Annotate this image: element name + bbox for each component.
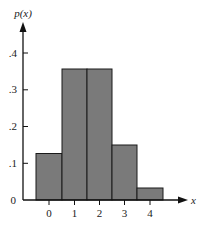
bars [36,69,163,200]
x-tick-label: 3 [122,207,128,219]
x-axis-arrow-icon [178,197,188,204]
y-tick-label: .3 [9,83,18,95]
bar-2 [87,69,112,200]
x-tick-label: 2 [97,207,103,219]
x-tick-label: 0 [46,207,52,219]
bar-1 [62,69,87,200]
y-tick-label: 0 [11,194,17,206]
y-axis-title: p(x) [13,7,32,20]
x-tick-label: 1 [72,207,78,219]
bar-0 [36,154,62,201]
bar-3 [112,145,137,200]
y-tick-label: .4 [9,47,18,59]
y-tick-label: .2 [9,120,17,132]
x-tick-label: 4 [147,207,153,219]
y-tick-label: .1 [9,157,17,169]
bar-4 [137,188,163,200]
x-axis-title: x [190,194,196,206]
y-axis-arrow-icon [20,22,27,32]
y-ticks [23,53,28,163]
probability-histogram: 0 .1 .2 .3 .4 0 1 2 3 4 p(x) x [0,0,206,232]
x-ticks [49,200,150,205]
